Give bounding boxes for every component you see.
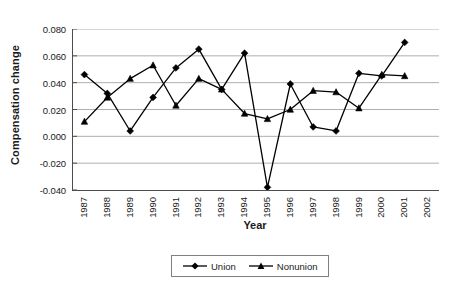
x-tick-label-text: 1995: [261, 197, 272, 218]
y-axis-title: Compensation change: [2, 0, 28, 210]
data-point-union: [264, 184, 271, 190]
x-tick-label-text: 1996: [284, 197, 295, 218]
x-tick-label-text: 1987: [78, 197, 89, 218]
y-tick-label: 0.040: [43, 77, 66, 88]
y-tick-label: 0.080: [43, 24, 66, 35]
y-tick-label: 0.060: [43, 50, 66, 61]
x-tick-label-text: 2002: [421, 197, 432, 218]
legend-entry-nonunion: Nonunion: [248, 260, 318, 272]
chart-legend: UnionNonunion: [171, 255, 329, 277]
legend-label: Union: [211, 261, 236, 272]
y-axis-ticks: [73, 29, 77, 190]
y-tick-label: -0.020: [40, 158, 66, 169]
data-point-union: [356, 70, 363, 77]
y-tick-label: 0.020: [43, 104, 66, 115]
data-point-nonunion: [150, 62, 156, 68]
x-tick-label-text: 1990: [147, 197, 158, 218]
x-tick-label-text: 1991: [169, 197, 180, 218]
x-tick-label-text: 1998: [330, 197, 341, 218]
plot-area: [72, 29, 439, 191]
x-tick-label-text: 2001: [398, 197, 409, 218]
y-tick-label: -0.040: [40, 185, 66, 196]
x-tick-label-text: 2000: [375, 197, 386, 218]
data-point-nonunion: [196, 75, 202, 81]
data-point-union: [333, 128, 340, 135]
legend-entry-union: Union: [182, 260, 236, 272]
triangle-marker-icon: [248, 260, 274, 272]
x-tick-label-text: 1992: [192, 197, 203, 218]
y-tick-label: 0.000: [43, 131, 66, 142]
compensation-change-line-chart: Compensation change 0.0800.0600.0400.020…: [0, 0, 455, 298]
diamond-marker-icon: [182, 260, 208, 272]
y-axis-tick-labels: 0.0800.0600.0400.0200.000-0.020-0.040: [26, 0, 70, 210]
x-tick-label-text: 1993: [215, 197, 226, 218]
legend-label: Nonunion: [277, 261, 318, 272]
x-tick-label-text: 1999: [352, 197, 363, 218]
plot-svg: [73, 29, 439, 190]
y-axis-title-label: Compensation change: [9, 45, 21, 165]
data-point-union: [310, 124, 317, 131]
data-point-union: [287, 81, 294, 88]
data-point-nonunion: [127, 75, 133, 81]
x-tick-label-text: 1994: [238, 197, 249, 218]
gridlines: [73, 29, 439, 163]
x-tick-label-text: 1988: [101, 197, 112, 218]
x-axis-title: Year: [72, 219, 438, 231]
x-tick-label-text: 1989: [124, 197, 135, 218]
x-tick-label-text: 1997: [307, 197, 318, 218]
